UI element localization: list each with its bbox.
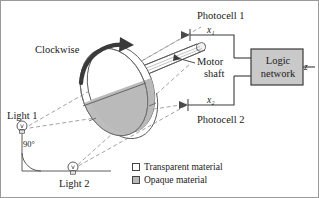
photocell-2-label: Photocell 2 (197, 115, 245, 126)
legend: Transparent material Opaque material (132, 162, 223, 188)
motor-label: Motor (197, 57, 223, 68)
logic-network-label-line1: Logic (256, 55, 300, 66)
legend-label-transparent: Transparent material (144, 162, 223, 172)
transparent-swatch (132, 163, 140, 171)
output-z-label: z (304, 63, 308, 73)
logic-network-label-line2: network (252, 68, 304, 79)
photocell-sensor-icon-1 (181, 29, 190, 41)
shaft-label: shaft (204, 69, 224, 80)
photocell-sensor-icon-2 (179, 99, 188, 111)
angle-arc (22, 153, 41, 171)
legend-item-opaque: Opaque material (132, 175, 223, 185)
light-bulb-icon-2 (68, 162, 78, 174)
input-x2-label: x₂ (207, 96, 215, 106)
light-bulb-icon-1 (17, 121, 27, 133)
angle-construction (22, 131, 111, 171)
legend-label-opaque: Opaque material (144, 175, 207, 185)
legend-item-transparent: Transparent material (132, 162, 223, 172)
input-x1-label: x₁ (207, 26, 215, 36)
light-1-label: Light 1 (7, 111, 38, 122)
clockwise-label: Clockwise (35, 45, 79, 56)
photocell-1-label: Photocell 1 (197, 11, 245, 22)
opaque-swatch (132, 176, 140, 184)
angle-label: 90° (23, 140, 35, 149)
figure-container: Photocell 1 x₁ Photocell 2 x₂ Motor shaf… (0, 0, 319, 198)
rotating-disk (69, 36, 169, 145)
light-2-label: Light 2 (59, 179, 90, 190)
